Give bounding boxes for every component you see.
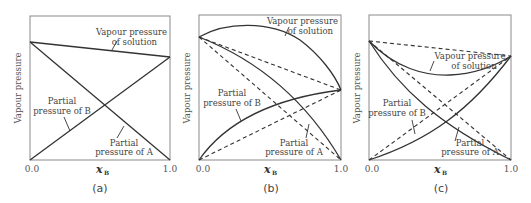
partial-a-label-line2: pressure of A xyxy=(441,147,499,157)
partial-b-arrow-icon xyxy=(64,117,70,131)
x-tick-max: 1.0 xyxy=(504,164,519,174)
x-axis-subscript: B xyxy=(104,169,109,176)
x-tick-min: 0.0 xyxy=(25,164,40,174)
partial-a-label-line2: pressure of A xyxy=(265,147,323,157)
partial-b-label-line1: Partial xyxy=(48,96,77,106)
solution-label-line1: Vapour pressure xyxy=(433,51,505,61)
x-axis-label: x xyxy=(433,163,441,176)
y-axis-label: Vapour pressure xyxy=(352,52,362,124)
x-axis-subscript: B xyxy=(442,169,447,176)
partial-b-label-line2: pressure of B xyxy=(368,108,426,118)
panel-caption: (a) xyxy=(92,182,107,195)
panel-a: Vapour pressure Vapour pressure of solut… xyxy=(13,16,177,195)
partial-b-label-line1: Partial xyxy=(218,88,247,98)
solution-label-line2: of solution xyxy=(288,26,334,36)
x-tick-min: 0.0 xyxy=(365,164,380,174)
partial-a-arrow-icon xyxy=(117,126,124,138)
plot-frame xyxy=(369,15,511,160)
partial-a-label-line2: pressure of A xyxy=(95,147,153,157)
partial-b-label-line2: pressure of B xyxy=(203,98,261,108)
x-axis-label: x xyxy=(95,163,103,176)
solution-arrow-icon xyxy=(430,61,434,71)
panel-caption: (c) xyxy=(434,182,449,195)
vapour-pressure-diagrams: Vapour pressure Vapour pressure of solut… xyxy=(0,0,531,203)
partial-b-label-line2: pressure of B xyxy=(33,106,91,116)
x-tick-min: 0.0 xyxy=(196,164,211,174)
solution-label-line2: of solution xyxy=(451,61,497,71)
x-axis-label: x xyxy=(263,163,271,176)
x-tick-max: 1.0 xyxy=(334,164,349,174)
solution-label-line2: of solution xyxy=(112,37,158,47)
panel-caption: (b) xyxy=(263,182,279,195)
partial-b-arrow-icon xyxy=(236,109,241,121)
partial-b-label-line1: Partial xyxy=(383,98,412,108)
solution-label-line1: Vapour pressure xyxy=(266,16,338,26)
x-tick-max: 1.0 xyxy=(163,164,178,174)
panel-b: Vapour pressure Vapour pressure of solut… xyxy=(182,15,348,195)
y-axis-label: Vapour pressure xyxy=(182,52,192,124)
y-axis-label: Vapour pressure xyxy=(13,52,23,124)
partial-a-arrow-icon xyxy=(306,124,309,138)
x-axis-subscript: B xyxy=(272,169,277,176)
panel-c: Vapour pressure Vapour pressure of solut… xyxy=(352,15,518,195)
ideal-solution-line xyxy=(199,37,341,90)
solution-label-line1: Vapour pressure xyxy=(95,27,167,37)
